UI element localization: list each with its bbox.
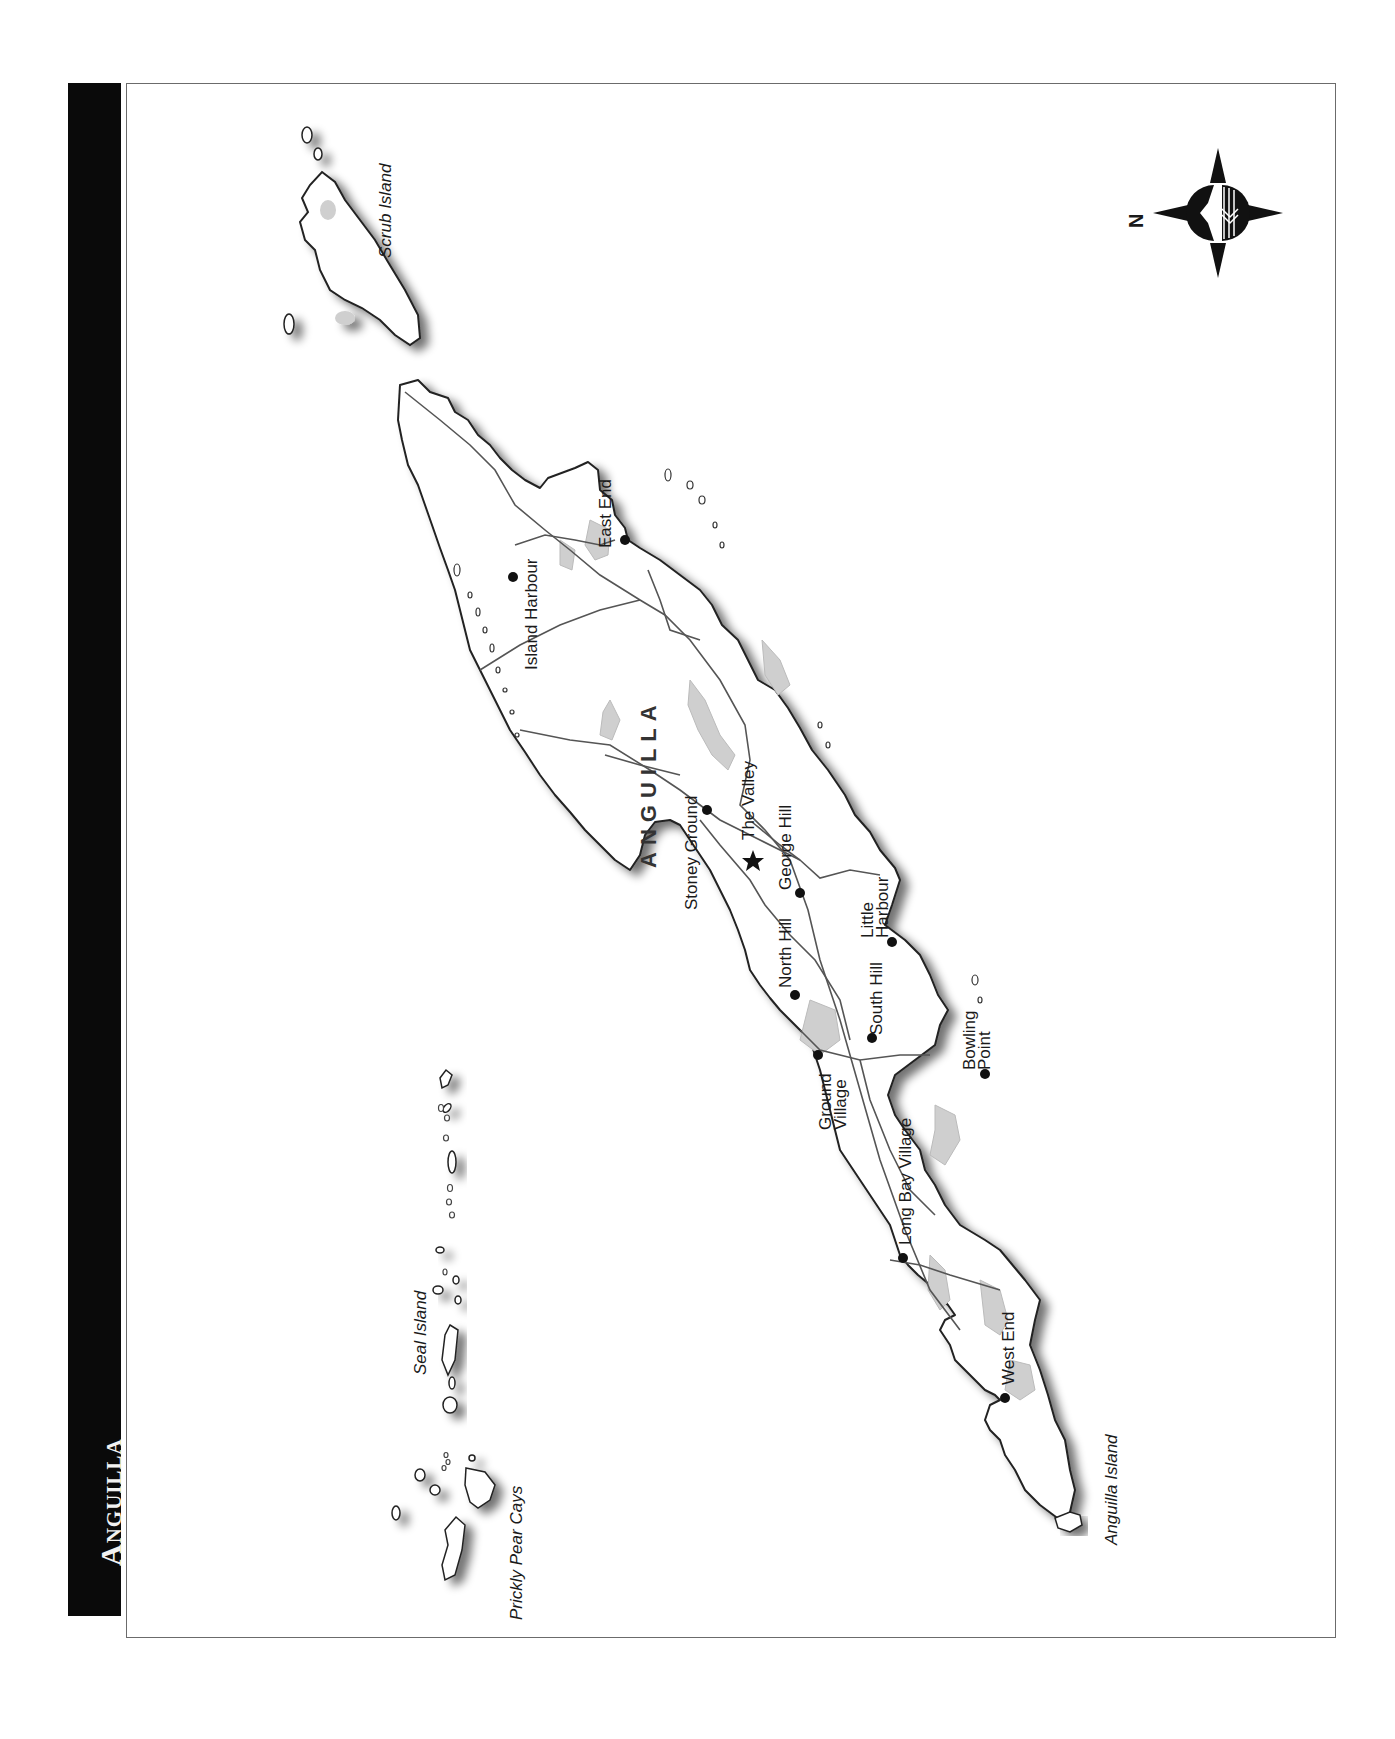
marker-ground-village bbox=[813, 1050, 823, 1060]
label-seal-island: Seal Island bbox=[412, 1291, 429, 1375]
label-north-hill: North Hill bbox=[777, 918, 794, 988]
marker-west-end bbox=[1000, 1393, 1010, 1403]
marker-bowling-point bbox=[980, 1069, 990, 1079]
compass-rose-icon bbox=[1153, 148, 1283, 278]
label-george-hill: George Hill bbox=[777, 805, 794, 890]
label-island-harbour: Island Harbour bbox=[523, 558, 540, 670]
country-label: ANGUILLA bbox=[640, 698, 657, 868]
label-ground-village: GroundVillage bbox=[818, 1073, 848, 1130]
label-west-end: West End bbox=[1000, 1312, 1017, 1385]
marker-long-bay-village bbox=[898, 1253, 908, 1263]
label-stoney-ground: Stoney Ground bbox=[683, 796, 700, 910]
label-prickly-pear-cays: Prickly Pear Cays bbox=[508, 1486, 525, 1620]
label-bowling-point: BowlingPoint bbox=[962, 1010, 992, 1070]
prickly-pear-cays bbox=[392, 1455, 495, 1580]
label-scrub-island: Scrub Island bbox=[377, 164, 394, 259]
label-little-harbour: LittleHarbour bbox=[860, 877, 890, 938]
label-long-bay-village: Long Bay Village bbox=[897, 1118, 914, 1245]
marker-george-hill bbox=[795, 888, 805, 898]
scrub-island bbox=[284, 127, 420, 345]
marker-stoney-ground bbox=[702, 805, 712, 815]
marker-north-hill bbox=[790, 990, 800, 1000]
label-east-end: East End bbox=[597, 479, 614, 548]
marker-island-harbour bbox=[508, 572, 518, 582]
marker-little-harbour bbox=[887, 937, 897, 947]
label-the-valley: The Valley bbox=[740, 761, 757, 840]
compass-north-label: N bbox=[1128, 214, 1145, 228]
label-anguilla-island: Anguilla Island bbox=[1103, 1434, 1120, 1545]
marker-east-end bbox=[620, 535, 630, 545]
label-south-hill: South Hill bbox=[868, 962, 885, 1035]
anguilla-main-island bbox=[398, 380, 1075, 1520]
